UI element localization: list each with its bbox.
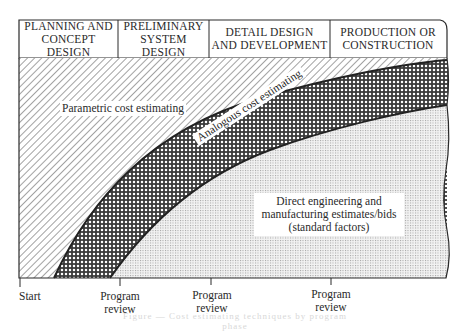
timeline-ticks [20, 278, 331, 287]
phase-detail-design: DETAIL DESIGNAND DEVELOPMENT [209, 20, 330, 58]
phase-production: PRODUCTION ORCONSTRUCTION [330, 20, 446, 58]
phase-planning: PLANNING ANDCONCEPT DESIGN [19, 20, 118, 58]
start-label: Start [19, 290, 41, 303]
parametric-label: Parametric cost estimating [60, 101, 186, 116]
phase-preliminary: PRELIMINARYSYSTEM DESIGN [118, 20, 209, 58]
figure-caption: Figure — Cost estimating techniques by p… [120, 311, 350, 331]
direct-estimates-label: Direct engineering and manufacturing est… [254, 193, 404, 236]
